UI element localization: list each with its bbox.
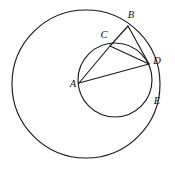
geometry-figure: ABCDE <box>0 0 175 169</box>
labels-layer: ABCDE <box>69 9 161 106</box>
point-label-e: E <box>153 95 161 106</box>
point-label-b: B <box>128 9 135 20</box>
segments-layer <box>79 26 149 83</box>
point-label-c: C <box>100 29 108 40</box>
segment-ac <box>79 46 110 83</box>
point-label-d: D <box>152 55 161 66</box>
point-label-a: A <box>69 78 77 89</box>
large-circle <box>12 10 160 158</box>
segment-cd <box>110 46 149 64</box>
circles-layer <box>12 10 160 158</box>
geometry-canvas: ABCDE <box>0 0 175 169</box>
segment-ad <box>79 64 149 83</box>
